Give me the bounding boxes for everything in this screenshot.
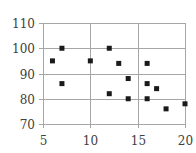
y-tick-label: 110 bbox=[12, 17, 35, 31]
data-point bbox=[126, 76, 131, 81]
y-axis-labels: 708090100110 bbox=[12, 17, 35, 132]
data-point bbox=[145, 81, 150, 86]
data-point bbox=[59, 46, 64, 51]
x-axis-labels: 5101520 bbox=[40, 134, 193, 148]
data-point bbox=[145, 96, 150, 101]
data-point bbox=[59, 81, 64, 86]
x-tick-label: 10 bbox=[83, 134, 98, 148]
data-point bbox=[107, 91, 112, 96]
y-tick-label: 90 bbox=[20, 68, 35, 82]
data-point bbox=[50, 58, 55, 63]
data-point bbox=[145, 61, 150, 66]
y-tick-label: 80 bbox=[20, 93, 35, 107]
data-point bbox=[126, 96, 131, 101]
x-tick-label: 20 bbox=[178, 134, 193, 148]
data-point bbox=[107, 46, 112, 51]
x-tick-label: 15 bbox=[131, 134, 146, 148]
data-point bbox=[88, 58, 93, 63]
x-tick-label: 5 bbox=[40, 134, 48, 148]
scatter-chart: 708090100110 5101520 bbox=[0, 0, 196, 153]
data-point bbox=[116, 61, 121, 66]
data-points bbox=[50, 46, 188, 112]
axis-ticks bbox=[39, 24, 186, 129]
data-point bbox=[164, 106, 169, 111]
data-point bbox=[154, 86, 159, 91]
y-tick-label: 100 bbox=[12, 42, 35, 56]
y-tick-label: 70 bbox=[20, 118, 35, 132]
data-point bbox=[183, 101, 188, 106]
